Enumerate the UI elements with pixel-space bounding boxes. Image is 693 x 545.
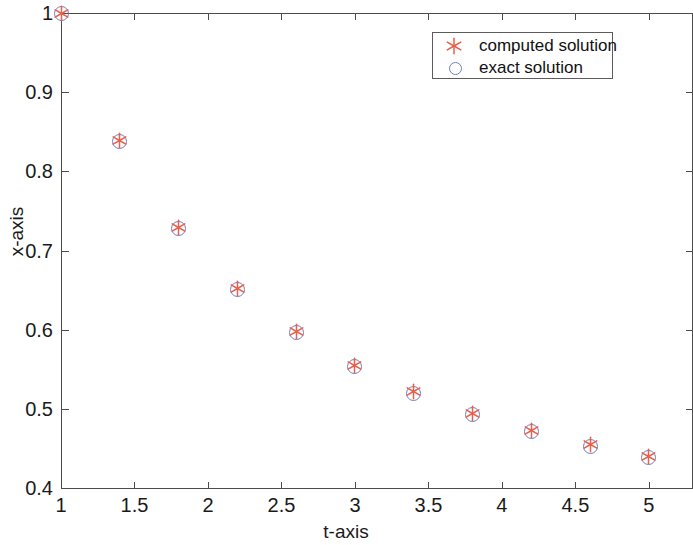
data-point-computed-9 bbox=[582, 436, 599, 453]
x-tick-label-8: 5 bbox=[643, 495, 654, 515]
x-tick-bottom-8 bbox=[649, 482, 650, 489]
x-tick-top-1 bbox=[134, 13, 135, 20]
data-point-computed-10 bbox=[640, 448, 657, 465]
x-tick-bottom-7 bbox=[575, 482, 576, 489]
x-tick-bottom-3 bbox=[281, 482, 282, 489]
circle-icon bbox=[171, 221, 186, 236]
x-axis-tick-labels: 11.522.533.544.55 bbox=[61, 495, 693, 525]
y-axis-title: x-axis bbox=[7, 192, 26, 272]
x-tick-label-5: 3.5 bbox=[415, 495, 443, 515]
data-point-exact-8 bbox=[523, 423, 540, 440]
asterisk-icon bbox=[288, 323, 305, 340]
data-point-computed-3 bbox=[229, 280, 246, 297]
data-point-computed-7 bbox=[464, 405, 481, 422]
x-tick-label-2: 2 bbox=[202, 495, 213, 515]
x-tick-top-0 bbox=[61, 13, 62, 20]
axis-spine-bottom bbox=[61, 488, 693, 489]
legend-label-1: exact solution bbox=[479, 59, 583, 76]
x-tick-label-6: 4 bbox=[496, 495, 507, 515]
y-tick-right-2 bbox=[686, 330, 693, 331]
y-tick-right-3 bbox=[686, 251, 693, 252]
y-tick-right-4 bbox=[686, 171, 693, 172]
y-tick-left-3 bbox=[62, 251, 69, 252]
x-tick-bottom-6 bbox=[502, 482, 503, 489]
data-point-exact-7 bbox=[464, 406, 481, 423]
data-point-computed-8 bbox=[523, 422, 540, 439]
data-point-computed-6 bbox=[405, 383, 422, 400]
data-point-computed-1 bbox=[111, 132, 128, 149]
circle-icon bbox=[583, 439, 598, 454]
y-tick-label-6: 1 bbox=[42, 3, 53, 23]
x-tick-bottom-1 bbox=[134, 482, 135, 489]
y-tick-left-5 bbox=[62, 92, 69, 93]
circle-icon bbox=[406, 386, 421, 401]
x-tick-label-4: 3 bbox=[349, 495, 360, 515]
x-tick-top-8 bbox=[649, 13, 650, 20]
x-tick-top-5 bbox=[428, 13, 429, 20]
x-tick-label-7: 4.5 bbox=[562, 495, 590, 515]
x-tick-label-0: 1 bbox=[55, 495, 66, 515]
x-tick-top-3 bbox=[281, 13, 282, 20]
x-tick-top-4 bbox=[355, 13, 356, 20]
data-point-exact-3 bbox=[229, 281, 246, 298]
asterisk-icon bbox=[445, 37, 463, 55]
y-tick-label-1: 0.5 bbox=[25, 399, 53, 419]
y-tick-label-5: 0.9 bbox=[25, 82, 53, 102]
y-tick-right-6 bbox=[686, 13, 693, 14]
asterisk-icon bbox=[111, 132, 128, 149]
circle-icon bbox=[347, 359, 362, 374]
legend-entry-1: exact solution bbox=[433, 56, 612, 79]
y-tick-left-2 bbox=[62, 330, 69, 331]
x-axis-title: t-axis bbox=[61, 522, 631, 541]
plot-area bbox=[61, 13, 693, 488]
asterisk-icon bbox=[640, 448, 657, 465]
circle-icon bbox=[641, 450, 656, 465]
asterisk-icon bbox=[523, 422, 540, 439]
asterisk-icon bbox=[464, 405, 481, 422]
circle-icon bbox=[112, 134, 127, 149]
data-point-exact-9 bbox=[582, 438, 599, 455]
circle-icon bbox=[289, 325, 304, 340]
legend-symbol-1 bbox=[433, 57, 479, 79]
x-tick-label-3: 2.5 bbox=[268, 495, 296, 515]
y-tick-right-1 bbox=[686, 409, 693, 410]
data-point-exact-1 bbox=[111, 133, 128, 150]
circle-icon bbox=[230, 282, 245, 297]
x-tick-bottom-4 bbox=[355, 482, 356, 489]
data-point-computed-4 bbox=[288, 323, 305, 340]
asterisk-icon bbox=[405, 383, 422, 400]
y-tick-label-3: 0.7 bbox=[25, 241, 53, 261]
data-point-computed-2 bbox=[170, 219, 187, 236]
x-tick-top-7 bbox=[575, 13, 576, 20]
circle-icon bbox=[465, 407, 480, 422]
y-tick-label-4: 0.8 bbox=[25, 161, 53, 181]
circle-icon bbox=[524, 424, 539, 439]
data-point-exact-2 bbox=[170, 220, 187, 237]
y-tick-left-4 bbox=[62, 171, 69, 172]
y-tick-left-1 bbox=[62, 409, 69, 410]
x-tick-bottom-5 bbox=[428, 482, 429, 489]
x-tick-bottom-2 bbox=[208, 482, 209, 489]
x-tick-top-6 bbox=[502, 13, 503, 20]
legend-symbol-0 bbox=[433, 35, 479, 57]
x-tick-label-1: 1.5 bbox=[121, 495, 149, 515]
y-tick-label-0: 0.4 bbox=[25, 478, 53, 498]
circle-icon bbox=[449, 62, 462, 75]
y-tick-right-5 bbox=[686, 92, 693, 93]
data-point-computed-5 bbox=[346, 357, 363, 374]
asterisk-icon bbox=[346, 357, 363, 374]
x-tick-top-2 bbox=[208, 13, 209, 20]
asterisk-icon bbox=[170, 219, 187, 236]
legend-entry-0: computed solution bbox=[433, 34, 612, 57]
legend-label-0: computed solution bbox=[479, 37, 617, 54]
axis-spine-top bbox=[61, 13, 693, 14]
asterisk-icon bbox=[229, 280, 246, 297]
y-tick-label-2: 0.6 bbox=[25, 320, 53, 340]
data-point-exact-10 bbox=[640, 449, 657, 466]
y-tick-right-0 bbox=[686, 488, 693, 489]
asterisk-icon bbox=[582, 436, 599, 453]
data-point-exact-4 bbox=[288, 324, 305, 341]
legend-box: computed solutionexact solution bbox=[432, 32, 613, 79]
y-tick-left-6 bbox=[62, 13, 69, 14]
